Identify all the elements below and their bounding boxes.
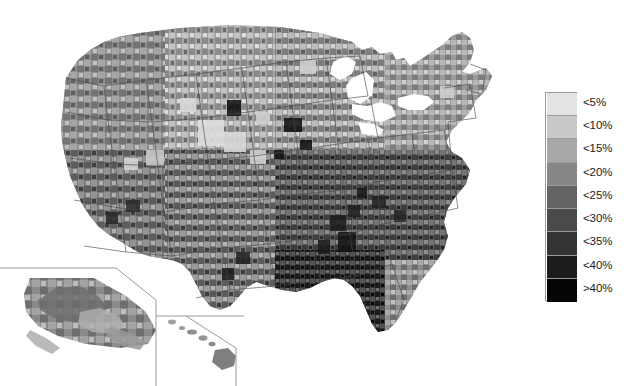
legend-label: <25% bbox=[583, 189, 612, 201]
hawaii-inset[interactable] bbox=[168, 320, 236, 370]
legend-row[interactable] bbox=[546, 186, 576, 209]
legend-swatch bbox=[547, 232, 577, 255]
legend-swatch bbox=[547, 116, 577, 139]
map-canvas[interactable] bbox=[0, 0, 532, 386]
legend[interactable]: <5% <10% <15% <20% <25% <30% <35% <40% >… bbox=[545, 92, 633, 301]
legend-row[interactable] bbox=[546, 256, 576, 279]
legend-label: <40% bbox=[583, 259, 612, 271]
legend-swatch-column bbox=[545, 92, 577, 301]
legend-row[interactable] bbox=[546, 116, 576, 139]
legend-label: <10% bbox=[583, 119, 612, 131]
legend-label: <20% bbox=[583, 166, 612, 178]
us-county-map[interactable] bbox=[0, 0, 532, 386]
conus-counties bbox=[55, 20, 510, 340]
legend-row[interactable] bbox=[546, 139, 576, 162]
legend-swatch bbox=[547, 279, 577, 302]
legend-swatch bbox=[547, 209, 577, 232]
legend-label: <5% bbox=[583, 96, 606, 108]
choropleth-figure: <5% <10% <15% <20% <25% <30% <35% <40% >… bbox=[0, 0, 638, 386]
legend-row[interactable] bbox=[546, 163, 576, 186]
legend-swatch bbox=[547, 186, 577, 209]
legend-swatch bbox=[547, 139, 577, 162]
legend-swatch bbox=[547, 93, 577, 116]
legend-label: <15% bbox=[583, 142, 612, 154]
legend-label: >40% bbox=[583, 282, 612, 294]
legend-swatch bbox=[547, 256, 577, 279]
legend-row[interactable] bbox=[546, 279, 576, 302]
alaska-inset[interactable] bbox=[24, 278, 156, 354]
legend-label: <35% bbox=[583, 235, 612, 247]
legend-swatch bbox=[547, 163, 577, 186]
legend-label: <30% bbox=[583, 212, 612, 224]
legend-row[interactable] bbox=[546, 93, 576, 116]
legend-row[interactable] bbox=[546, 232, 576, 255]
legend-row[interactable] bbox=[546, 209, 576, 232]
